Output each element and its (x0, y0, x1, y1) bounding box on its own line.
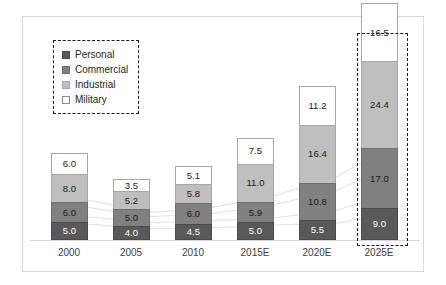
value-label: 8.0 (63, 184, 77, 194)
value-label: 4.5 (187, 227, 201, 237)
bar-2020E[interactable]: 11.2 16.4 10.8 5.5 (299, 87, 336, 240)
value-label: 16.4 (308, 149, 327, 159)
military-swatch-icon (62, 96, 70, 104)
segment-military-2010[interactable]: 5.1 (175, 166, 212, 184)
segment-industrial-2020E[interactable]: 16.4 (299, 125, 336, 184)
legend-label: Military (75, 94, 107, 105)
x-tick-2020E: 2020E (286, 247, 348, 258)
value-label: 4.0 (125, 228, 139, 238)
segment-industrial-2015E[interactable]: 11.0 (237, 164, 274, 203)
value-label: 5.0 (63, 226, 77, 236)
segment-industrial-2000[interactable]: 8.0 (51, 174, 88, 203)
segment-personal-2020E[interactable]: 5.5 (299, 220, 336, 240)
bar-2005[interactable]: 3.5 5.2 5.0 4.0 (113, 180, 150, 240)
segment-personal-2015E[interactable]: 5.0 (237, 222, 274, 240)
bar-2000[interactable]: 6.0 8.0 6.0 5.0 (51, 154, 88, 240)
legend-item-military[interactable]: Military (62, 92, 128, 107)
value-label: 5.0 (249, 226, 263, 236)
segment-commercial-2025E[interactable]: 17.0 (361, 148, 398, 209)
legend-item-commercial[interactable]: Commercial (62, 62, 128, 77)
segment-personal-2005[interactable]: 4.0 (113, 226, 150, 240)
x-tick-2005: 2005 (100, 247, 162, 258)
segment-commercial-2000[interactable]: 6.0 (51, 202, 88, 224)
segment-military-2015E[interactable]: 7.5 (237, 138, 274, 165)
x-axis-baseline (30, 240, 420, 241)
personal-swatch-icon (62, 51, 70, 59)
segment-industrial-2005[interactable]: 5.2 (113, 191, 150, 210)
value-label: 5.8 (187, 189, 201, 199)
segment-personal-2000[interactable]: 5.0 (51, 222, 88, 240)
chart-legend: Personal Commercial Industrial Military (53, 40, 139, 114)
x-tick-2010: 2010 (162, 247, 224, 258)
bar-2015E[interactable]: 7.5 11.0 5.9 5.0 (237, 139, 274, 240)
x-tick-2000: 2000 (38, 247, 100, 258)
segment-military-2025E[interactable]: 16.5 (361, 3, 398, 62)
segment-commercial-2015E[interactable]: 5.9 (237, 202, 274, 223)
legend-label: Industrial (75, 79, 116, 90)
value-label: 11.0 (246, 178, 264, 188)
value-label: 24.4 (370, 100, 389, 110)
value-label: 10.8 (308, 197, 327, 207)
x-tick-2025E: 2025E (348, 247, 410, 258)
legend-label: Commercial (75, 64, 128, 75)
legend-item-industrial[interactable]: Industrial (62, 77, 128, 92)
x-tick-2015E: 2015E (224, 247, 286, 258)
segment-military-2000[interactable]: 6.0 (51, 153, 88, 175)
stacked-bar-chart: 6.0 8.0 6.0 5.0 3.5 5.2 5.0 4.0 5.1 5.8 … (0, 0, 446, 285)
value-label: 3.5 (125, 181, 139, 191)
segment-industrial-2025E[interactable]: 24.4 (361, 61, 398, 148)
segment-commercial-2005[interactable]: 5.0 (113, 209, 150, 227)
segment-personal-2025E[interactable]: 9.0 (361, 208, 398, 240)
value-label: 5.1 (187, 171, 201, 181)
value-label: 5.9 (249, 208, 263, 218)
industrial-swatch-icon (62, 81, 70, 89)
segment-industrial-2010[interactable]: 5.8 (175, 184, 212, 205)
value-label: 9.0 (373, 219, 387, 229)
bar-2025E[interactable]: 16.5 24.4 17.0 9.0 (361, 4, 398, 240)
segment-military-2020E[interactable]: 11.2 (299, 86, 336, 126)
value-label: 6.0 (63, 159, 77, 169)
segment-commercial-2020E[interactable]: 10.8 (299, 183, 336, 222)
bar-2010[interactable]: 5.1 5.8 6.0 4.5 (175, 167, 212, 240)
value-label: 5.0 (125, 213, 139, 223)
value-label: 6.0 (63, 208, 77, 218)
value-label: 5.5 (311, 225, 325, 235)
value-label: 17.0 (370, 174, 389, 184)
value-label: 7.5 (249, 146, 263, 156)
value-label: 11.2 (308, 101, 326, 111)
value-label: 6.0 (187, 209, 201, 219)
segment-commercial-2010[interactable]: 6.0 (175, 203, 212, 225)
segment-personal-2010[interactable]: 4.5 (175, 224, 212, 240)
value-label: 5.2 (125, 196, 139, 206)
commercial-swatch-icon (62, 66, 70, 74)
legend-label: Personal (75, 49, 114, 60)
legend-item-personal[interactable]: Personal (62, 47, 128, 62)
value-label: 16.5 (370, 28, 389, 38)
